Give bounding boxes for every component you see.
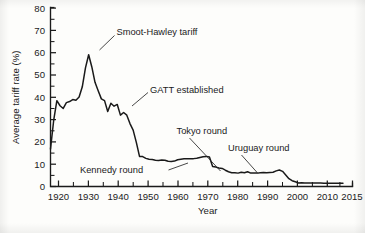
annotation-tokyo-round: Tokyo round	[177, 126, 228, 136]
y-tick-label: 50	[34, 69, 45, 80]
y-axis-ticks	[51, 8, 57, 186]
y-axis-title: Average tariff rate (%)	[11, 51, 22, 145]
x-tick-label: 1980	[227, 191, 248, 202]
y-tick-label: 70	[34, 25, 45, 36]
y-axis-tick-labels: 0 10 20 30 40 50 60 70 80	[34, 3, 45, 192]
annotation-uruguay-round: Uruguay round	[228, 143, 290, 153]
y-tick-label: 40	[34, 92, 45, 103]
x-tick-label: 1920	[48, 191, 69, 202]
y-tick-label: 60	[34, 47, 45, 58]
x-tick-label: 1950	[137, 191, 158, 202]
x-axis-title: Year	[198, 205, 218, 216]
annotation-smoot-hawley: Smoot-Hawley tariff	[117, 27, 198, 37]
x-tick-label: 1970	[197, 191, 218, 202]
y-tick-label: 80	[34, 3, 45, 14]
leader-line-kennedy-round	[169, 163, 189, 170]
x-tick-label: 2015	[341, 191, 362, 202]
y-tick-label: 10	[34, 159, 45, 170]
annotation-gatt: GATT established	[150, 85, 224, 95]
x-tick-label: 2000	[287, 191, 308, 202]
y-tick-label: 20	[34, 136, 45, 147]
x-tick-label: 1960	[167, 191, 188, 202]
leader-line-uruguay-round	[242, 155, 259, 174]
x-tick-label: 1940	[108, 191, 129, 202]
leader-line-gatt	[132, 93, 148, 107]
x-tick-label: 1990	[257, 191, 278, 202]
leader-line-smoot-hawley	[100, 36, 115, 51]
chart-figure: 0 10 20 30 40 50 60 70 80	[0, 0, 365, 233]
x-axis-tick-labels: 1920 1930 1940 1950 1960 1970 1980 1990 …	[48, 191, 363, 202]
chart-axes	[51, 8, 353, 187]
y-tick-label: 30	[34, 114, 45, 125]
x-tick-label: 1930	[78, 191, 99, 202]
y-tick-label: 0	[40, 181, 45, 192]
tariff-line-chart: 0 10 20 30 40 50 60 70 80	[0, 0, 365, 233]
x-tick-label: 2010	[317, 191, 338, 202]
annotation-kennedy-round: Kennedy round	[80, 165, 143, 175]
axis-lines	[51, 8, 353, 187]
leader-line-tokyo-round	[190, 138, 221, 171]
tariff-rate-line	[51, 55, 343, 183]
